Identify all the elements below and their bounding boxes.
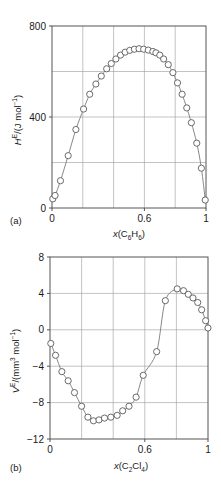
x-tick-label: 0.6 xyxy=(137,213,151,224)
y-tick-label: 800 xyxy=(29,21,46,32)
y-tick-label: −4 xyxy=(33,361,45,372)
chart-a-y-tick-labels: 0400800 xyxy=(29,21,46,214)
y-tick-label: −8 xyxy=(33,397,45,408)
chart-b-frame xyxy=(47,257,208,442)
x-tick-label: 0.6 xyxy=(138,444,152,455)
y-tick-label: 400 xyxy=(29,112,46,123)
y-tick-label: 0 xyxy=(38,324,44,335)
chart-b-y-tick-labels: −12−8−4048 xyxy=(27,252,44,445)
figure-panel-a: 00.61 0400800 HE/(J mol−1) x(C6H6) (a) xyxy=(0,0,221,243)
chart-a-y-axis-title: HE/(J mol−1) xyxy=(11,95,23,145)
chart-b-x-tick-labels: 00.61 xyxy=(47,444,211,455)
x-tick-label: 1 xyxy=(205,444,211,455)
x-tick-label: 0 xyxy=(49,213,55,224)
chart-b-gridlines xyxy=(50,257,208,439)
x-tick-label: 0 xyxy=(47,444,53,455)
chart-b-svg: 00.61 −12−8−4048 VE/(mm3 mol−1) x(C2Cl4)… xyxy=(0,243,221,486)
y-tick-label: 8 xyxy=(38,252,44,263)
y-tick-label: 0 xyxy=(40,203,46,214)
chart-a-x-tick-labels: 00.61 xyxy=(49,213,209,224)
chart-b-datapoints xyxy=(48,286,211,424)
y-tick-label: −12 xyxy=(27,434,44,445)
chart-b-y-axis-title: VE/(mm3 mol−1) xyxy=(9,329,21,394)
chart-b-curve xyxy=(51,288,208,421)
figure-panel-b: 00.61 −12−8−4048 VE/(mm3 mol−1) x(C2Cl4)… xyxy=(0,243,221,486)
chart-b-x-axis-title: x(C2Cl4) xyxy=(113,460,148,473)
chart-a-svg: 00.61 0400800 HE/(J mol−1) x(C6H6) (a) xyxy=(0,0,221,243)
chart-a-x-axis-title: x(C6H6) xyxy=(112,228,145,241)
chart-a-datapoints xyxy=(50,46,209,203)
x-tick-label: 1 xyxy=(203,213,209,224)
y-tick-label: 4 xyxy=(38,288,44,299)
panel-label-b: (b) xyxy=(10,462,22,473)
panel-label-a: (a) xyxy=(10,215,22,226)
